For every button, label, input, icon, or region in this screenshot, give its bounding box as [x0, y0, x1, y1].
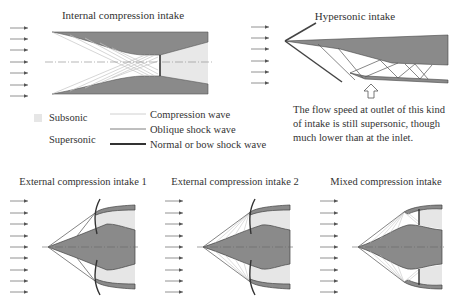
legend-oblique-shock: Oblique shock wave	[150, 124, 236, 135]
hypersonic-panel: Hypersonic intake The flow speed at outl…	[251, 10, 448, 143]
ramp-body	[285, 35, 448, 65]
external-2-panel: External compression intake 2	[165, 176, 299, 295]
external2-title: External compression intake 2	[171, 176, 298, 187]
mixed-title: Mixed compression intake	[330, 176, 442, 187]
legend-compression-wave: Compression wave	[150, 109, 231, 120]
flow-arrows	[10, 201, 28, 292]
flow-arrows	[165, 201, 183, 292]
subsonic-region-lower	[419, 265, 442, 286]
legend: Subsonic Supersonic Compression wave Obl…	[34, 109, 266, 150]
legend-supersonic: Supersonic	[49, 134, 96, 145]
subsonic-region-upper	[419, 208, 442, 229]
flow-arrows	[320, 201, 338, 292]
outlet-arrow-icon	[364, 84, 378, 98]
mixed-panel: Mixed compression intake	[320, 176, 444, 292]
intake-diagram: Internal compression intake Hypersonic i…	[0, 0, 457, 307]
note-line-1: The flow speed at outlet of this kind	[293, 104, 446, 115]
flow-arrows	[251, 27, 269, 83]
subsonic-swatch	[34, 114, 42, 122]
note-line-3: much lower than at the inlet.	[293, 132, 413, 143]
legend-normal-shock: Normal or bow shock wave	[150, 139, 266, 150]
cowl	[350, 73, 448, 83]
hypersonic-title: Hypersonic intake	[315, 10, 395, 22]
external-1-panel: External compression intake 1	[10, 176, 147, 295]
internal-compression-panel: Internal compression intake	[10, 9, 212, 96]
external1-title: External compression intake 1	[19, 176, 146, 187]
flow-arrows	[10, 28, 28, 96]
legend-subsonic: Subsonic	[49, 112, 88, 123]
internal-title: Internal compression intake	[62, 9, 184, 21]
bow-shock-upper	[285, 23, 316, 41]
note-line-2: of intake is still supersonic, though	[293, 118, 441, 129]
